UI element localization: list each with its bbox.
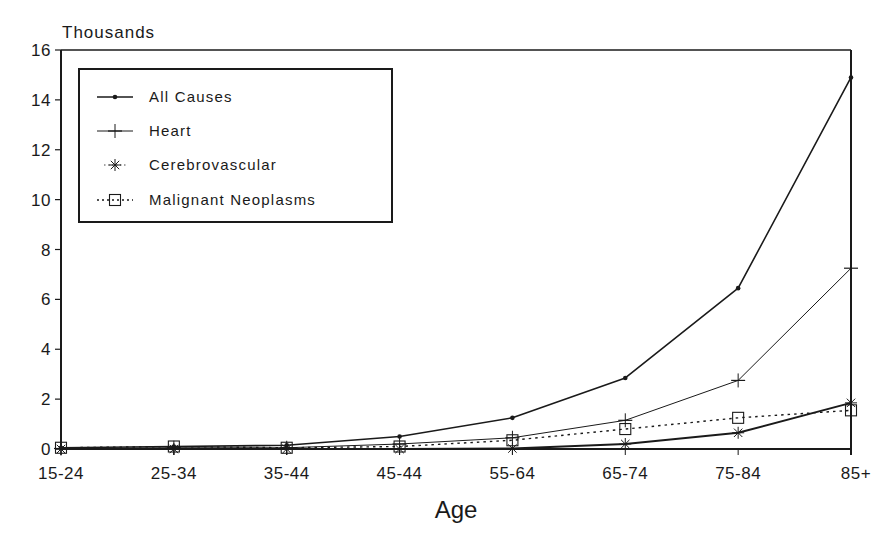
dot-marker-icon bbox=[849, 75, 854, 80]
x-tick-label: 25-34 bbox=[151, 464, 197, 483]
x-tick-label: 15-24 bbox=[38, 464, 84, 483]
y-tick-label: 2 bbox=[41, 390, 51, 409]
y-axis-ticks: 0246810121416 bbox=[31, 41, 61, 459]
legend-label: Malignant Neoplasms bbox=[149, 191, 316, 208]
line-chart: 0246810121416 15-2425-3435-4445-4455-646… bbox=[0, 0, 886, 545]
y-axis-unit-label: Thousands bbox=[62, 23, 155, 42]
legend-label: Heart bbox=[149, 122, 192, 139]
y-tick-label: 4 bbox=[41, 340, 51, 359]
dot-marker-icon bbox=[113, 95, 118, 100]
x-axis-title: Age bbox=[435, 496, 478, 523]
asterisk-marker-icon bbox=[732, 427, 744, 439]
x-tick-label: 55-64 bbox=[489, 464, 535, 483]
dot-marker-icon bbox=[397, 434, 402, 439]
legend: All CausesHeartCerebrovascularMalignant … bbox=[79, 69, 392, 222]
dot-marker-icon bbox=[284, 443, 289, 448]
dot-marker-icon bbox=[510, 416, 515, 421]
legend-label: Cerebrovascular bbox=[149, 156, 277, 173]
asterisk-marker-icon bbox=[109, 159, 121, 171]
x-tick-label: 45-44 bbox=[377, 464, 423, 483]
x-tick-label: 65-74 bbox=[602, 464, 648, 483]
x-tick-label: 75-84 bbox=[715, 464, 761, 483]
plus-marker-icon bbox=[280, 441, 294, 455]
x-axis-ticks: 15-2425-3435-4445-4455-6465-7475-8485+ bbox=[38, 449, 871, 483]
y-tick-label: 0 bbox=[41, 440, 51, 459]
plus-marker-icon bbox=[618, 413, 632, 427]
x-tick-label: 35-44 bbox=[264, 464, 310, 483]
y-tick-label: 8 bbox=[41, 241, 51, 260]
y-tick-label: 14 bbox=[31, 91, 51, 110]
dot-marker-icon bbox=[172, 444, 177, 449]
plus-marker-icon bbox=[505, 431, 519, 445]
series-heart bbox=[54, 261, 858, 455]
y-tick-label: 6 bbox=[41, 290, 51, 309]
y-tick-label: 10 bbox=[31, 191, 51, 210]
y-tick-label: 12 bbox=[31, 141, 51, 160]
y-tick-label: 16 bbox=[31, 41, 51, 60]
dot-marker-icon bbox=[623, 376, 628, 381]
dot-marker-icon bbox=[736, 286, 741, 291]
legend-label: All Causes bbox=[149, 88, 233, 105]
asterisk-marker-icon bbox=[845, 397, 857, 409]
x-tick-label: 85+ bbox=[841, 464, 871, 483]
dot-marker-icon bbox=[59, 445, 64, 450]
